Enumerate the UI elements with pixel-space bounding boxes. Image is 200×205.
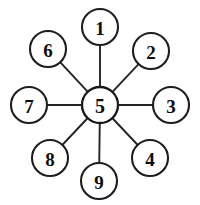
nodes-group: 123498765 — [11, 9, 189, 199]
node-2[interactable]: 2 — [133, 33, 169, 69]
edge-5-to-2 — [112, 64, 139, 93]
hub-node-5[interactable]: 5 — [82, 87, 118, 123]
node-7[interactable]: 7 — [11, 87, 47, 123]
node-9[interactable]: 9 — [81, 163, 117, 199]
edge-5-to-9 — [99, 123, 100, 164]
node-label-7: 7 — [24, 96, 34, 117]
edge-5-to-4 — [112, 118, 138, 146]
node-label-9: 9 — [94, 172, 104, 193]
node-6[interactable]: 6 — [30, 31, 66, 67]
node-label-4: 4 — [145, 149, 155, 170]
node-label-8: 8 — [45, 149, 55, 170]
node-1[interactable]: 1 — [82, 9, 118, 45]
edge-5-to-6 — [60, 62, 88, 92]
hub-label-5: 5 — [95, 95, 105, 117]
node-label-6: 6 — [43, 40, 53, 61]
star-diagram-canvas: 123498765 — [0, 0, 200, 205]
node-label-2: 2 — [146, 42, 156, 63]
node-8[interactable]: 8 — [32, 140, 68, 176]
node-label-3: 3 — [166, 96, 176, 117]
node-4[interactable]: 4 — [132, 140, 168, 176]
edge-5-to-8 — [62, 118, 88, 146]
node-3[interactable]: 3 — [153, 87, 189, 123]
node-label-1: 1 — [95, 18, 105, 39]
star-diagram-svg: 123498765 — [0, 0, 200, 205]
